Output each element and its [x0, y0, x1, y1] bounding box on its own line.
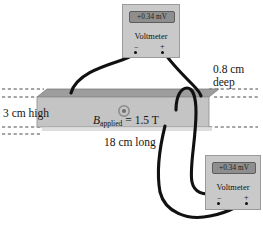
label-slab-height: 3 cm high — [3, 107, 49, 120]
field-symbol-B: B — [93, 114, 100, 126]
field-subscript-applied: applied — [100, 119, 122, 128]
voltmeter-bottom[interactable]: +0.34 mV Voltmeter − + — [205, 155, 261, 210]
label-slab-length: 18 cm long — [104, 136, 156, 149]
voltmeter-bottom-positive-sign: + — [244, 194, 249, 201]
voltmeter-bottom-label: Voltmeter — [206, 183, 260, 192]
voltmeter-bottom-reading: +0.34 mV — [212, 162, 256, 174]
voltmeter-top-positive-sign: + — [160, 43, 165, 50]
label-slab-depth-line2: deep — [213, 76, 244, 89]
voltmeter-top-label: Voltmeter — [123, 32, 179, 41]
voltmeter-top-positive-terminal[interactable] — [161, 51, 164, 54]
hall-effect-figure: +0.34 mV Voltmeter − + +0.34 mV Voltmete… — [0, 0, 263, 234]
voltmeter-bottom-negative-sign: − — [217, 195, 222, 202]
label-slab-depth-line1: 0.8 cm — [213, 63, 244, 76]
voltmeter-top-negative-terminal[interactable] — [134, 51, 137, 54]
voltmeter-bottom-negative-terminal[interactable] — [217, 202, 220, 205]
voltmeter-top-reading: +0.34 mV — [129, 11, 175, 23]
voltmeter-bottom-positive-terminal[interactable] — [245, 202, 248, 205]
field-value: = 1.5 T — [122, 114, 158, 126]
voltmeter-top[interactable]: +0.34 mV Voltmeter − + — [122, 4, 180, 58]
slab-shadow — [42, 127, 212, 131]
label-slab-depth: 0.8 cm deep — [213, 63, 244, 89]
voltmeter-top-negative-sign: − — [134, 44, 139, 51]
dimension-guides-right — [209, 89, 258, 127]
label-applied-field: Bapplied = 1.5 T — [93, 114, 159, 126]
